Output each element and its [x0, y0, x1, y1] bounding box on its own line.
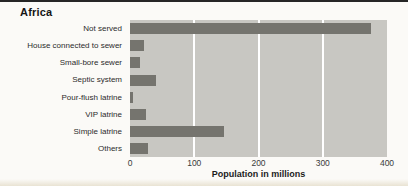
top-rule-divider	[0, 0, 408, 2]
category-label: Pour-flush latrine	[0, 89, 126, 106]
category-label: VIP latrine	[0, 106, 126, 123]
page-edge-shading	[0, 179, 408, 186]
x-tick-label: 200	[251, 158, 265, 168]
gridline-200	[258, 20, 260, 157]
x-tick-label: 100	[187, 158, 201, 168]
sanitation-bar-chart-figure: Africa Not servedHouse connected to sewe…	[0, 0, 408, 186]
x-tick-label: 300	[316, 158, 330, 168]
category-label: Small-bore sewer	[0, 54, 126, 71]
bar-others	[130, 143, 148, 154]
category-axis: Not servedHouse connected to sewerSmall-…	[0, 20, 126, 157]
bar-small-bore-sewer	[130, 57, 140, 68]
bar-not-served	[130, 23, 371, 34]
category-label: Simple latrine	[0, 123, 126, 140]
category-label: Not served	[0, 20, 126, 37]
x-tick-label: 400	[380, 158, 394, 168]
gridline-300	[322, 20, 324, 157]
category-label: House connected to sewer	[0, 37, 126, 54]
category-label: Septic system	[0, 71, 126, 88]
bar-simple-latrine	[130, 126, 224, 137]
chart-title: Africa	[20, 6, 52, 18]
x-axis-ticks: 0100200300400	[0, 158, 408, 168]
x-axis-title: Population in millions	[130, 169, 387, 179]
plot-area	[130, 20, 387, 157]
category-label: Others	[0, 140, 126, 157]
bar-pour-flush-latrine	[130, 92, 133, 103]
x-tick-label: 0	[128, 158, 133, 168]
bar-house-connected-to-sewer	[130, 40, 144, 51]
bar-vip-latrine	[130, 109, 146, 120]
bar-septic-system	[130, 75, 156, 86]
